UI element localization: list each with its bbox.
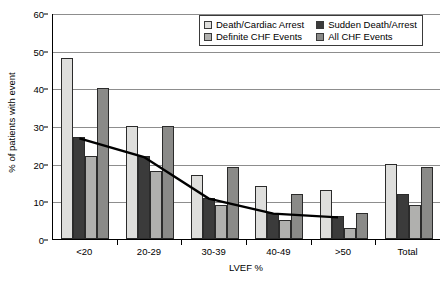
bar xyxy=(397,194,409,239)
x-tick-label-3: 40-49 xyxy=(266,246,290,257)
x-axis-title: LVEF % xyxy=(52,262,440,273)
y-tick-mark-5 xyxy=(44,51,48,52)
x-tick-mark-5 xyxy=(375,240,376,245)
bar xyxy=(73,137,85,239)
y-tick-mark-6 xyxy=(44,14,48,15)
y-tick-label-3: 30 xyxy=(33,122,44,133)
chart-legend: Death/Cardiac ArrestSudden Death/ArrestD… xyxy=(199,15,423,46)
legend-label: Death/Cardiac Arrest xyxy=(216,19,304,30)
bar xyxy=(332,216,344,239)
legend-swatch-icon xyxy=(204,21,212,29)
x-axis-tick-labels: <2020-2930-3940-49>50Total xyxy=(52,246,440,260)
y-tick-label-2: 20 xyxy=(33,159,44,170)
bar-group-2029 xyxy=(126,14,174,239)
bar xyxy=(126,126,138,239)
bar-group-4049 xyxy=(255,14,303,239)
legend-item: Definite CHF Events xyxy=(204,31,304,42)
x-tick-mark-2 xyxy=(181,240,182,245)
bar-chart: % of patients with event 0102030405060 <… xyxy=(0,0,447,291)
legend-label: Sudden Death/Arrest xyxy=(328,19,417,30)
bar xyxy=(255,186,267,239)
bar xyxy=(344,228,356,239)
bar xyxy=(150,171,162,239)
bar xyxy=(97,88,109,239)
bar xyxy=(356,213,368,239)
x-tick-label-4: >50 xyxy=(335,246,351,257)
y-tick-mark-3 xyxy=(44,127,48,128)
bar xyxy=(267,213,279,239)
x-tick-label-5: Total xyxy=(398,246,418,257)
bar-group-Total xyxy=(385,14,433,239)
x-tick-label-1: 20-29 xyxy=(137,246,161,257)
x-axis-ticks xyxy=(52,240,440,245)
legend-item: All CHF Events xyxy=(316,31,417,42)
bar xyxy=(409,205,421,239)
y-tick-label-6: 60 xyxy=(33,9,44,20)
bar xyxy=(138,156,150,239)
x-tick-mark-4 xyxy=(311,240,312,245)
bar xyxy=(291,194,303,239)
y-tick-mark-0 xyxy=(44,240,48,241)
y-axis-title: % of patients with event xyxy=(0,0,22,245)
y-tick-mark-4 xyxy=(44,89,48,90)
y-tick-mark-1 xyxy=(44,202,48,203)
y-tick-mark-2 xyxy=(44,164,48,165)
y-tick-label-5: 50 xyxy=(33,46,44,57)
bar xyxy=(191,175,203,239)
y-axis-title-label: % of patients with event xyxy=(6,72,17,172)
bar xyxy=(421,167,433,239)
bar-group-3039 xyxy=(191,14,239,239)
x-tick-mark-1 xyxy=(117,240,118,245)
legend-label: All CHF Events xyxy=(328,31,392,42)
bar xyxy=(279,220,291,239)
bar xyxy=(85,156,97,239)
y-tick-label-4: 40 xyxy=(33,84,44,95)
bar xyxy=(61,58,73,239)
bar xyxy=(215,205,227,239)
x-tick-mark-3 xyxy=(246,240,247,245)
legend-swatch-icon xyxy=(316,21,324,29)
legend-swatch-icon xyxy=(316,33,324,41)
bar-group-50 xyxy=(320,14,368,239)
bars-layer xyxy=(53,14,440,239)
y-axis-tick-labels: 0102030405060 xyxy=(22,14,48,240)
bar xyxy=(320,190,332,239)
bar xyxy=(227,167,239,239)
legend-item: Death/Cardiac Arrest xyxy=(204,19,304,30)
legend-swatch-icon xyxy=(204,33,212,41)
bar xyxy=(385,164,397,239)
x-tick-label-0: <20 xyxy=(76,246,92,257)
plot-area xyxy=(52,14,440,240)
bar xyxy=(203,198,215,239)
x-tick-label-2: 30-39 xyxy=(202,246,226,257)
y-tick-label-1: 10 xyxy=(33,197,44,208)
legend-item: Sudden Death/Arrest xyxy=(316,19,417,30)
bar xyxy=(162,126,174,239)
legend-label: Definite CHF Events xyxy=(216,31,302,42)
bar-group-20 xyxy=(61,14,109,239)
